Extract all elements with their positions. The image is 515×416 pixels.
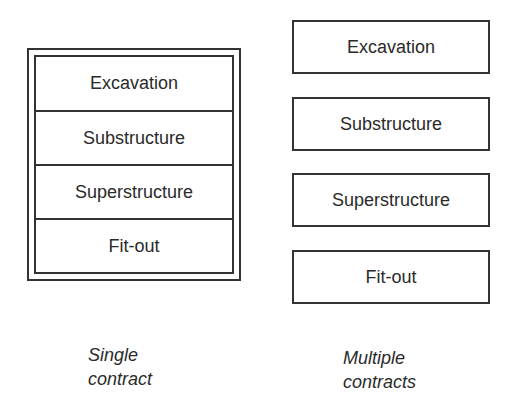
single-caption-line-2: contract	[88, 367, 152, 391]
multiple-stage-fit-out: Fit-out	[292, 250, 490, 304]
multiple-stage-excavation: Excavation	[292, 20, 490, 74]
single-stage-excavation: Excavation	[36, 57, 232, 110]
single-stage-substructure: Substructure	[36, 110, 232, 164]
single-caption-line-1: Single	[88, 343, 152, 367]
multiple-stage-substructure: Substructure	[292, 97, 490, 151]
multiple-caption-line-2: contracts	[343, 370, 416, 394]
single-contract-caption: Single contract	[88, 343, 152, 391]
single-stage-superstructure: Superstructure	[36, 164, 232, 218]
multiple-caption-line-1: Multiple	[343, 346, 416, 370]
multiple-stage-superstructure: Superstructure	[292, 173, 490, 227]
single-contract-box: Excavation Substructure Superstructure F…	[34, 55, 234, 274]
single-stage-fit-out: Fit-out	[36, 218, 232, 272]
multiple-contracts-caption: Multiple contracts	[343, 346, 416, 394]
